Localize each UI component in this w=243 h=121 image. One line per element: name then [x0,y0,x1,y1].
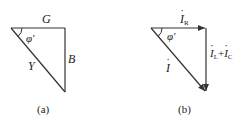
ic-main: I [224,47,228,59]
caption-a: (a) [37,104,49,115]
label-phi-b: φ' [167,31,175,42]
label-i: I [166,62,170,74]
ic-sub: C [228,53,233,61]
i-phasor [151,28,205,91]
caption-b: (b) [178,104,191,115]
label-g: G [42,13,51,25]
i-main: I [166,61,170,75]
angle-arc [158,28,162,36]
label-y: Y [28,60,35,72]
ir-main: I [180,12,184,26]
angle-arc [18,28,22,36]
admittance-triangle [11,28,65,92]
label-b: B [68,53,75,65]
label-il-plus-ic: IL+IC [210,48,233,61]
label-phi-a: φ' [26,33,34,44]
label-ir: IR [180,13,189,27]
admittance-side [11,28,65,92]
ir-sub: R [184,19,189,27]
il-main: I [210,47,214,59]
current-phasor-triangle [151,28,206,91]
